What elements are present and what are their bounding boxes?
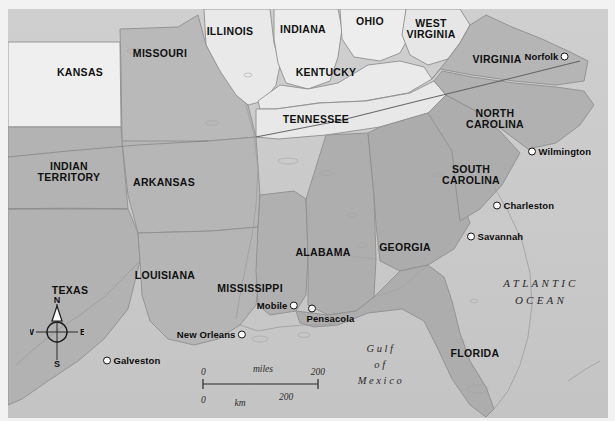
map-canvas: KANSAS MISSOURI ILLINOIS INDIANA OHIO WE… (8, 9, 608, 418)
scale-miles-end: 200 (311, 367, 326, 377)
water-label-gulf-of-mexico: Gulf of Mexico (358, 341, 405, 388)
state-shape-mississippi (256, 191, 308, 315)
city-marker-galveston[interactable]: Galveston (103, 355, 160, 366)
city-dot-icon (290, 301, 298, 309)
state-shape-indian-territory (8, 127, 128, 209)
city-label-galveston: Galveston (114, 355, 161, 366)
city-marker-savannah[interactable]: Savannah (467, 231, 523, 242)
compass-label-north: N (54, 295, 61, 305)
scale-miles-start: 0 (201, 367, 206, 377)
city-marker-mobile[interactable]: Mobile (257, 300, 298, 311)
scale-km-label: km (234, 398, 245, 407)
city-label-norfolk: Norfolk (525, 51, 559, 62)
city-dot-icon (103, 356, 111, 364)
city-dot-icon (528, 147, 536, 155)
city-dot-icon (493, 201, 501, 209)
scale-km-start: 0 (201, 395, 206, 405)
state-shape-arkansas (122, 137, 260, 233)
city-label-savannah: Savannah (478, 231, 524, 242)
scale-bar-line (203, 379, 318, 389)
city-marker-wilmington[interactable]: Wilmington (528, 146, 591, 157)
compass-label-west: W (30, 327, 35, 337)
city-label-pensacola: Pensacola (307, 313, 355, 324)
compass-rose: N S E W (30, 294, 84, 368)
compass-north-arrow-icon (52, 306, 62, 321)
city-marker-new-orleans[interactable]: New Orleans (177, 329, 246, 340)
scale-bar: 0 miles 200 0 km 200 (198, 361, 328, 407)
city-dot-icon (467, 232, 475, 240)
water-label-atlantic-ocean: ATLANTIC OCEAN (503, 275, 578, 308)
city-label-charleston: Charleston (504, 200, 555, 211)
city-label-wilmington: Wilmington (539, 146, 592, 157)
map-figure: KANSAS MISSOURI ILLINOIS INDIANA OHIO WE… (0, 0, 615, 421)
scale-miles-label: miles (253, 364, 273, 374)
scale-km-end: 200 (279, 392, 294, 402)
city-label-new-orleans: New Orleans (177, 329, 236, 340)
city-label-mobile: Mobile (257, 300, 288, 311)
city-dot-icon (308, 304, 316, 312)
city-marker-pensacola[interactable]: Pensacola (308, 303, 316, 314)
state-shape-indiana (274, 9, 342, 89)
map-geography (8, 9, 608, 418)
state-shape-kansas (8, 42, 121, 127)
city-marker-charleston[interactable]: Charleston (493, 200, 554, 211)
city-dot-icon (238, 330, 246, 338)
city-marker-norfolk[interactable]: Norfolk (525, 51, 569, 62)
compass-label-east: E (80, 327, 84, 337)
city-dot-icon (561, 52, 569, 60)
compass-label-south: S (54, 359, 60, 368)
